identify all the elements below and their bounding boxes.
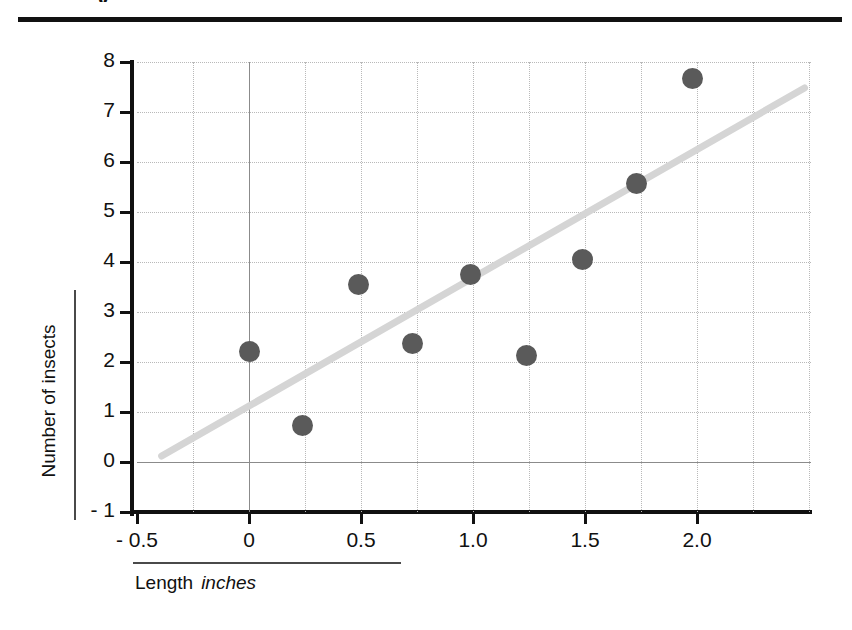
- x-axis-title-rule: [133, 562, 401, 564]
- x-axis-tick-label: 0.5: [321, 528, 401, 552]
- x-axis-title-unit: inches: [193, 572, 256, 593]
- x-axis-title: Lengthinches: [135, 572, 256, 594]
- y-axis-tick: [120, 261, 133, 264]
- x-axis-tick-label: 2.0: [657, 528, 737, 552]
- x-axis-tick: [136, 512, 139, 524]
- gridline-vertical: [697, 62, 699, 512]
- y-axis-tick: [120, 111, 133, 114]
- data-point: [239, 341, 260, 362]
- gridline-vertical: [641, 62, 643, 512]
- y-axis-title: Number of insects: [38, 296, 60, 506]
- data-point: [460, 264, 481, 285]
- x-axis-tick: [696, 512, 699, 524]
- y-axis-title-rule: [74, 290, 76, 520]
- x-axis-line: [130, 510, 812, 514]
- data-point: [516, 345, 537, 366]
- data-point: [348, 274, 369, 295]
- y-axis-tick: [120, 211, 133, 214]
- gridline-vertical: [809, 62, 811, 512]
- data-point: [402, 333, 423, 354]
- y-axis-title-group: Number of insects: [18, 290, 78, 520]
- y-axis-tick-label: 4: [60, 248, 115, 272]
- x-axis-tick: [472, 512, 475, 524]
- y-axis-tick-label: 8: [60, 48, 115, 72]
- gridline-vertical: [529, 62, 531, 512]
- y-axis-tick-label: 6: [60, 148, 115, 172]
- gridline-vertical: [473, 62, 475, 512]
- chart-page: y - 1012345678 - 0.500.51.01.52.0 Number…: [0, 0, 852, 630]
- y-axis-tick: [120, 311, 133, 314]
- y-axis-tick: [120, 411, 133, 414]
- x-axis-tick: [584, 512, 587, 524]
- x-axis-tick-label: 1.0: [433, 528, 513, 552]
- x-axis-tick-label: 1.5: [545, 528, 625, 552]
- y-axis-tick: [120, 361, 133, 364]
- data-point: [292, 415, 313, 436]
- y-axis-tick: [120, 461, 133, 464]
- gridline-vertical: [417, 62, 419, 512]
- gridline-vertical: [305, 62, 307, 512]
- x-zero-reference-line: [249, 62, 250, 512]
- header-divider: [18, 17, 842, 22]
- x-axis-tick: [360, 512, 363, 524]
- y-axis-tick-label: 5: [60, 198, 115, 222]
- y-axis-tick-label: 7: [60, 98, 115, 122]
- gridline-vertical: [753, 62, 755, 512]
- x-axis-tick-label: 0: [209, 528, 289, 552]
- gridline-vertical: [193, 62, 195, 512]
- page-title-fragment: y: [96, 0, 110, 2]
- y-axis-tick: [120, 161, 133, 164]
- y-axis-tick: [120, 61, 133, 64]
- y-axis-line: [130, 60, 134, 516]
- x-axis-tick-label: - 0.5: [97, 528, 177, 552]
- data-point: [572, 249, 593, 270]
- y-axis-tick: [120, 511, 133, 514]
- y-zero-reference-line: [137, 462, 811, 463]
- gridline-vertical: [585, 62, 587, 512]
- data-point: [682, 68, 703, 89]
- x-axis-title-main: Length: [135, 572, 193, 593]
- data-point: [626, 173, 647, 194]
- x-axis-tick: [248, 512, 251, 524]
- trend-line: [133, 62, 810, 512]
